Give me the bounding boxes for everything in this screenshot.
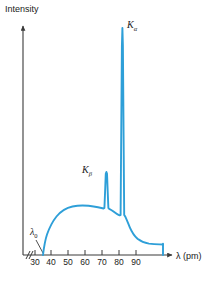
lambda-zero-leader-line <box>36 240 43 253</box>
spectrum-curve <box>43 28 163 255</box>
xray-spectrum-figure: Intensity λ (pm) Kα Kβ λ0 30 40 50 60 70… <box>0 0 205 281</box>
x-tick-marks <box>35 250 136 255</box>
plot-canvas <box>0 0 205 281</box>
